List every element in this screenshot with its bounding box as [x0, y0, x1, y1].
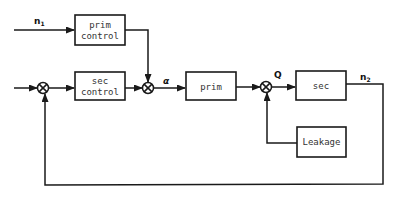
prim-control-block: prim control: [75, 15, 125, 45]
leakage-block: Leakage: [297, 127, 346, 157]
svg-text:sec: sec: [313, 81, 329, 91]
sum-junction-input-icon: [38, 83, 49, 94]
sum-junction-q-icon: [261, 82, 272, 93]
block-diagram: n1 prim control sec control α prim: [0, 0, 395, 200]
svg-text:prim: prim: [89, 20, 111, 30]
svg-text:control: control: [81, 31, 119, 41]
q-label: Q: [274, 70, 282, 80]
svg-text:Leakage: Leakage: [303, 137, 341, 147]
n2-label: n2: [360, 72, 371, 83]
svg-text:prim: prim: [200, 82, 222, 92]
svg-text:n1: n1: [34, 16, 45, 27]
prim-block: prim: [186, 72, 236, 100]
sec-control-block: sec control: [75, 72, 125, 100]
leakage-to-sum-line: [267, 93, 297, 143]
sum-junction-alpha-icon: [143, 83, 154, 94]
prim-control-to-sum-line: [125, 30, 148, 82]
svg-text:sec: sec: [92, 76, 108, 86]
sec-block: sec: [296, 71, 346, 100]
alpha-label: α: [163, 76, 170, 86]
svg-text:control: control: [81, 87, 119, 97]
n1-signal: n1: [14, 16, 74, 30]
